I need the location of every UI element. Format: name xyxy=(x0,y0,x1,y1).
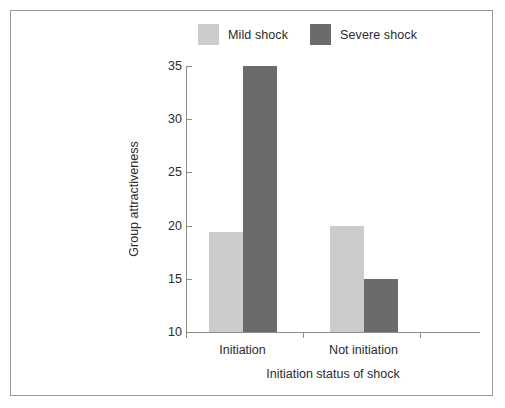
bar-mild-shock-not-initiation xyxy=(330,226,364,332)
y-tick-mark xyxy=(187,226,192,227)
x-category-label: Not initiation xyxy=(329,343,398,357)
x-axis-title: Initiation status of shock xyxy=(266,367,399,381)
y-tick-mark xyxy=(187,66,192,67)
y-axis-title: Group attractiveness xyxy=(127,141,141,256)
chart-legend: Mild shock Severe shock xyxy=(198,24,417,45)
x-tick-mark xyxy=(303,333,304,338)
chart-figure: Mild shock Severe shock 101520253035 Gro… xyxy=(0,0,505,408)
y-tick-mark xyxy=(187,119,192,120)
y-tick-label: 25 xyxy=(158,165,182,179)
y-tick-mark xyxy=(187,172,192,173)
x-axis-line xyxy=(186,332,480,333)
x-tick-mark xyxy=(186,333,187,338)
bar-severe-shock-not-initiation xyxy=(364,279,398,332)
legend-swatch-severe-shock xyxy=(310,24,331,45)
y-tick-label: 30 xyxy=(158,112,182,126)
y-tick-label: 10 xyxy=(158,325,182,339)
x-tick-mark xyxy=(420,333,421,338)
bar-mild-shock-initiation xyxy=(209,232,243,332)
legend-swatch-mild-shock xyxy=(198,24,219,45)
y-tick-label: 15 xyxy=(158,272,182,286)
y-axis-ticks: 101520253035 xyxy=(152,0,182,408)
bar-severe-shock-initiation xyxy=(243,66,277,332)
legend-label-severe-shock: Severe shock xyxy=(340,28,417,42)
plot-area xyxy=(186,66,418,332)
y-tick-mark xyxy=(187,332,192,333)
y-tick-label: 20 xyxy=(158,219,182,233)
x-category-label: Initiation xyxy=(219,343,266,357)
legend-label-mild-shock: Mild shock xyxy=(228,28,288,42)
y-tick-mark xyxy=(187,279,192,280)
legend-entry-mild-shock: Mild shock xyxy=(198,24,288,45)
legend-entry-severe-shock: Severe shock xyxy=(310,24,417,45)
y-tick-label: 35 xyxy=(158,59,182,73)
